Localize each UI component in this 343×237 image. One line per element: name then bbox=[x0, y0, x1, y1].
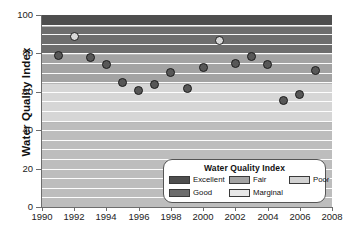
y-axis-line bbox=[41, 15, 42, 208]
legend: Water Quality Index ExcellentGoodFairMar… bbox=[163, 159, 326, 203]
data-point bbox=[247, 52, 256, 61]
gridline bbox=[42, 53, 332, 54]
legend-item-good: Good bbox=[169, 188, 212, 197]
gridline bbox=[42, 101, 332, 102]
y-axis-tick bbox=[36, 130, 41, 131]
legend-label: Excellent bbox=[193, 175, 225, 184]
y-axis-tick bbox=[36, 92, 41, 93]
data-point bbox=[231, 59, 240, 68]
legend-item-fair: Fair bbox=[229, 175, 266, 184]
y-axis-tick bbox=[36, 169, 41, 170]
gridline bbox=[42, 121, 332, 122]
legend-swatch-good bbox=[169, 189, 190, 197]
legend-swatch-marginal bbox=[229, 189, 250, 197]
data-point bbox=[54, 51, 63, 60]
gridline bbox=[42, 82, 332, 83]
band-good bbox=[42, 27, 332, 54]
y-axis-tick-labels: 020406080100 bbox=[0, 0, 33, 237]
legend-label: Good bbox=[193, 188, 212, 197]
gridline bbox=[42, 25, 332, 26]
y-axis-tick-label: 40 bbox=[3, 125, 33, 135]
y-axis-tick bbox=[36, 15, 41, 16]
y-axis-tick-label: 100 bbox=[3, 10, 33, 20]
chart-figure: Water Quality Index 020406080100 1990199… bbox=[0, 0, 343, 237]
gridline bbox=[42, 63, 332, 64]
legend-label: Poor bbox=[313, 175, 329, 184]
data-point bbox=[183, 84, 192, 93]
gridline bbox=[42, 149, 332, 150]
legend-item-excellent: Excellent bbox=[169, 175, 225, 184]
legend-title: Water Quality Index bbox=[169, 163, 320, 174]
gridline bbox=[42, 44, 332, 45]
y-axis-tick-label: 80 bbox=[3, 48, 33, 58]
gridline bbox=[42, 111, 332, 112]
x-axis-line bbox=[41, 207, 332, 208]
gridline bbox=[42, 34, 332, 35]
y-axis-tick bbox=[36, 207, 41, 208]
data-point bbox=[150, 80, 159, 89]
legend-item-marginal: Marginal bbox=[229, 188, 283, 197]
legend-label: Fair bbox=[253, 175, 266, 184]
legend-item-poor: Poor bbox=[289, 175, 329, 184]
x-axis-tick-label: 2008 bbox=[312, 212, 343, 222]
y-axis-tick bbox=[36, 53, 41, 54]
legend-swatch-poor bbox=[289, 176, 310, 184]
data-point bbox=[118, 78, 127, 87]
gridline bbox=[42, 140, 332, 141]
y-axis-tick-label: 20 bbox=[3, 164, 33, 174]
data-point bbox=[199, 63, 208, 72]
legend-items: ExcellentGoodFairMarginalPoor bbox=[169, 175, 320, 201]
gridline bbox=[42, 130, 332, 131]
gridline bbox=[42, 73, 332, 74]
y-axis-tick-label: 0 bbox=[3, 202, 33, 212]
legend-swatch-excellent bbox=[169, 176, 190, 184]
legend-swatch-fair bbox=[229, 176, 250, 184]
y-axis-tick-label: 60 bbox=[3, 87, 33, 97]
data-point bbox=[86, 53, 95, 62]
legend-label: Marginal bbox=[253, 188, 283, 197]
data-point bbox=[70, 32, 79, 41]
band-excellent bbox=[42, 15, 332, 25]
